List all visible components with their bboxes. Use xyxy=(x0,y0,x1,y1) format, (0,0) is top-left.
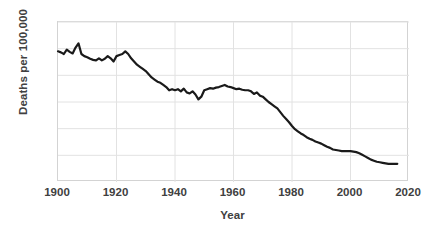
x-tick-label: 1900 xyxy=(27,187,87,199)
data-series-line xyxy=(58,22,409,182)
line-chart: Deaths per 100,000 050100150200250300 19… xyxy=(0,0,433,233)
x-tick-label: 1960 xyxy=(203,187,263,199)
x-tick-label: 2000 xyxy=(320,187,380,199)
y-axis-title: Deaths per 100,000 xyxy=(17,0,29,132)
x-axis-title: Year xyxy=(57,209,408,221)
series-path-deaths xyxy=(58,43,397,164)
x-tick-label: 2020 xyxy=(378,187,433,199)
x-tick-label: 1980 xyxy=(261,187,321,199)
plot-area xyxy=(57,21,408,181)
x-tick-label: 1920 xyxy=(86,187,146,199)
x-tick-label: 1940 xyxy=(144,187,204,199)
